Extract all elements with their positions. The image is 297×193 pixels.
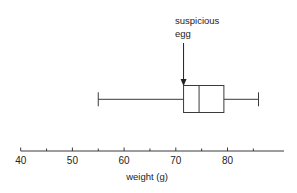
x-axis: 4050607080	[15, 148, 284, 167]
iqr-box	[184, 86, 224, 113]
box-plot-chart: suspicious egg 4050607080 weight (g)	[0, 0, 297, 193]
annotation-line-1: suspicious	[175, 15, 220, 26]
box-plot	[98, 86, 258, 113]
annotation: suspicious egg	[175, 15, 220, 86]
x-tick-label: 40	[15, 155, 27, 166]
annotation-arrow-head-icon	[181, 79, 187, 86]
x-tick-label: 60	[119, 155, 131, 166]
x-tick-label: 70	[170, 155, 182, 166]
x-tick-label: 50	[67, 155, 79, 166]
x-tick-label: 80	[222, 155, 234, 166]
x-axis-title: weight (g)	[125, 171, 168, 182]
annotation-line-2: egg	[175, 28, 191, 39]
